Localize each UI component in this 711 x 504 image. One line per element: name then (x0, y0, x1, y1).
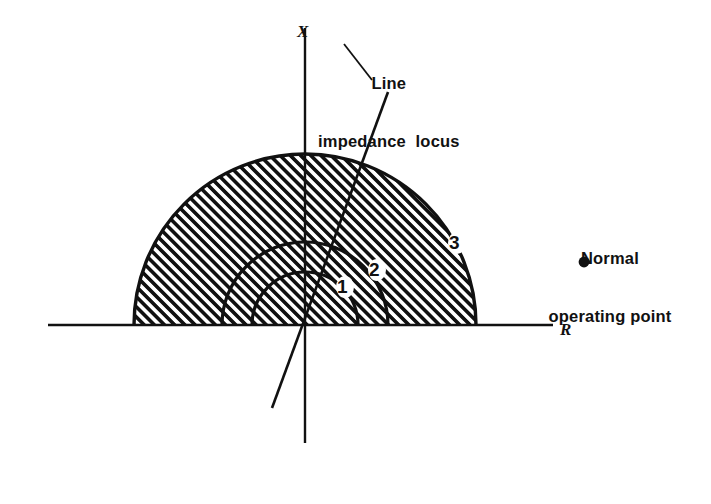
normal-operating-point-label: Normal operating point (525, 210, 695, 346)
line-impedance-locus-label: Line impedance locus (318, 35, 460, 171)
x-axis-label: X (297, 22, 308, 42)
line-impedance-locus-label-line1: Line (318, 74, 460, 93)
normal-operating-point-label-line2: operating point (525, 307, 695, 326)
normal-operating-point-label-line1: Normal (525, 249, 695, 268)
line-impedance-locus-label-line2: impedance locus (318, 132, 460, 151)
zone-1-label: 1 (337, 276, 348, 298)
zone-3-label: 3 (449, 232, 460, 254)
zone-2-label: 2 (369, 259, 380, 281)
